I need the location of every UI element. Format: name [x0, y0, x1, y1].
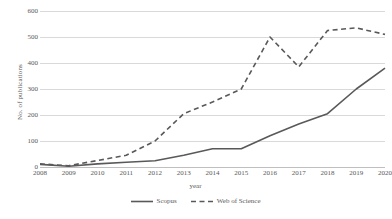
series-lines	[40, 11, 385, 167]
y-tick-label-400: 400	[28, 60, 39, 67]
x-tick-label-2017: 2017	[292, 170, 306, 177]
x-tick-label-2008: 2008	[33, 170, 47, 177]
y-axis-tick-labels: 0100200300400500600	[14, 0, 38, 175]
series-line-scopus	[40, 68, 385, 166]
legend-item-scopus[interactable]: Scopus	[131, 198, 177, 205]
series-line-web-of-science	[40, 28, 385, 166]
legend-swatch-dashed-line-icon	[191, 198, 213, 205]
x-tick-label-2009: 2009	[62, 170, 76, 177]
legend-item-web-of-science[interactable]: Web of Science	[191, 198, 261, 205]
x-tick-label-2018: 2018	[321, 170, 335, 177]
plot-area	[40, 11, 385, 167]
x-tick-label-2020: 2020	[378, 170, 392, 177]
x-tick-label-2012: 2012	[148, 170, 162, 177]
x-tick-label-2011: 2011	[119, 170, 133, 177]
x-tick-label-2013: 2013	[177, 170, 191, 177]
y-tick-label-600: 600	[28, 8, 39, 15]
x-axis-title: year	[0, 182, 391, 190]
x-tick-label-2016: 2016	[263, 170, 277, 177]
chart-legend: ScopusWeb of Science	[0, 198, 391, 205]
y-tick-label-100: 100	[28, 138, 39, 145]
x-tick-label-2014: 2014	[206, 170, 220, 177]
legend-swatch-solid-line-icon	[131, 198, 153, 205]
legend-label: Scopus	[157, 198, 177, 205]
x-tick-label-2015: 2015	[234, 170, 248, 177]
y-tick-label-200: 200	[28, 112, 39, 119]
x-tick-label-2019: 2019	[349, 170, 363, 177]
legend-label: Web of Science	[217, 198, 261, 205]
gridline-0	[40, 167, 385, 168]
x-tick-label-2010: 2010	[91, 170, 105, 177]
x-axis-tick-labels: 2008200920102011201220132014201520162017…	[40, 170, 385, 182]
y-tick-label-300: 300	[28, 86, 39, 93]
y-tick-label-500: 500	[28, 34, 39, 41]
